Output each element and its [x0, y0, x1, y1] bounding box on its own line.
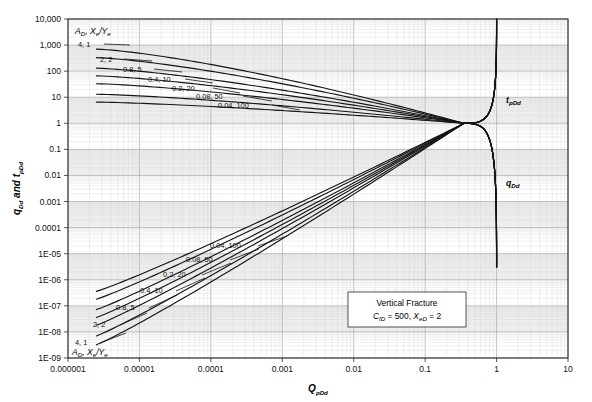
svg-text:qDd and tpDd: qDd and tpDd — [11, 162, 24, 215]
x-tick-label: 0.1 — [419, 364, 431, 374]
x-tick-label: 1 — [494, 364, 499, 374]
y-tick-label: 0.01 — [44, 170, 61, 180]
x-tick-label: 0.01 — [345, 364, 362, 374]
curve-label-lower-0_2__20: 0.2, 20 — [163, 270, 186, 279]
y-tick-label: 1 — [56, 118, 61, 128]
y-tick-label: 1,000 — [40, 40, 62, 50]
x-tick-label: 0.001 — [272, 364, 294, 374]
curve-label-lower-0_08__50: 0.08, 50 — [186, 255, 213, 264]
x-tick-label: 0.00001 — [124, 364, 155, 374]
branch-label-qDd: qDd — [506, 178, 520, 189]
y-tick-label: 1E-09 — [38, 353, 61, 363]
curve-label-lower-2__2: 2, 2 — [93, 320, 105, 329]
branch-label-tpDd: tpDd — [506, 95, 521, 106]
y-tick-label: 1E-07 — [38, 301, 61, 311]
x-tick-label: 0.000001 — [50, 364, 86, 374]
annotation-line-1: Vertical Fracture — [377, 298, 438, 308]
curve-label-lower-0_4__10: 0.4, 10 — [140, 286, 163, 295]
legend-header-upper: AD, Xe/Ye — [74, 26, 111, 37]
y-tick-label: 0.001 — [40, 197, 62, 207]
y-tick-label: 100 — [47, 66, 61, 76]
y-tick-label: 1E-06 — [38, 275, 61, 285]
y-tick-label: 1E-05 — [38, 249, 61, 259]
type-curve-chart: 0.0000010.000010.00010.0010.010.111010,0… — [0, 0, 592, 402]
y-tick-label: 10,000 — [35, 14, 61, 24]
curve-label-upper-0_04__100: 0.04, 100 — [218, 101, 249, 110]
curve-label-upper-2__2: 2, 2 — [100, 55, 112, 64]
curve-label-upper-4__1: 4, 1 — [78, 40, 90, 49]
curve-label-upper-0_4__10: 0.4, 10 — [148, 75, 171, 84]
x-axis-title: QpDd — [308, 383, 328, 396]
x-tick-label: 0.0001 — [198, 364, 224, 374]
curve-label-lower-0_04__100: 0.04, 100 — [210, 241, 241, 250]
curve-label-lower-0_8__5: 0.8, 5 — [116, 303, 135, 312]
y-tick-label: 0.0001 — [35, 223, 61, 233]
y-axis-title: qDd and tpDd — [11, 162, 24, 215]
chart-root: 0.0000010.000010.00010.0010.010.111010,0… — [0, 0, 592, 402]
y-tick-label: 1E-08 — [38, 327, 61, 337]
y-tick-label: 10 — [52, 92, 62, 102]
curve-label-upper-0_08__50: 0.08, 50 — [196, 92, 223, 101]
curve-label-upper-0_8__5: 0.8, 5 — [123, 65, 142, 74]
curve-label-upper-0_2__20: 0.2, 20 — [172, 84, 195, 93]
x-tick-label: 10 — [563, 364, 573, 374]
curve-label-lower-4__1: 4, 1 — [75, 338, 87, 347]
legend-header-lower: AD, Xe/Ye — [71, 347, 108, 358]
y-tick-label: 0.1 — [49, 144, 61, 154]
